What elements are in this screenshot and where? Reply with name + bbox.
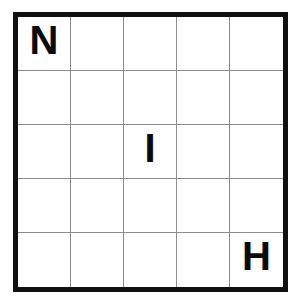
cell-letter-r5c5: H (230, 234, 283, 278)
puzzle-canvas: N (0, 0, 300, 308)
grid-cell-r4c3[interactable] (124, 179, 177, 233)
grid-cell-r1c3[interactable] (124, 17, 177, 71)
grid-cell-r5c3[interactable] (124, 233, 177, 287)
grid-cell-r2c1[interactable] (18, 71, 71, 125)
grid-cell-r3c1[interactable] (18, 125, 71, 179)
cell-letter-r1c1: N (18, 18, 70, 62)
grid-cell-r1c5[interactable] (230, 17, 283, 71)
grid-cell-r1c1[interactable]: N (18, 17, 71, 71)
grid-cell-r4c1[interactable] (18, 179, 71, 233)
letter-grid: N (13, 12, 288, 292)
grid-cell-r5c5[interactable]: H (230, 233, 283, 287)
grid-cell-r4c5[interactable] (230, 179, 283, 233)
grid-cell-r5c2[interactable] (71, 233, 124, 287)
grid-cell-r2c2[interactable] (71, 71, 124, 125)
grid-inner: N (18, 17, 283, 287)
grid-cell-r5c1[interactable] (18, 233, 71, 287)
grid-cell-r3c4[interactable] (177, 125, 230, 179)
grid-cell-r2c4[interactable] (177, 71, 230, 125)
grid-cell-r3c2[interactable] (71, 125, 124, 179)
grid-cell-r3c5[interactable] (230, 125, 283, 179)
grid-cell-r1c2[interactable] (71, 17, 124, 71)
grid-cell-r4c2[interactable] (71, 179, 124, 233)
grid-cell-r2c3[interactable] (124, 71, 177, 125)
grid-cell-r2c5[interactable] (230, 71, 283, 125)
cell-letter-r3c3: I (124, 126, 176, 170)
grid-cell-r5c4[interactable] (177, 233, 230, 287)
grid-cell-r4c4[interactable] (177, 179, 230, 233)
grid-cell-r1c4[interactable] (177, 17, 230, 71)
grid-cell-r3c3[interactable]: I (124, 125, 177, 179)
